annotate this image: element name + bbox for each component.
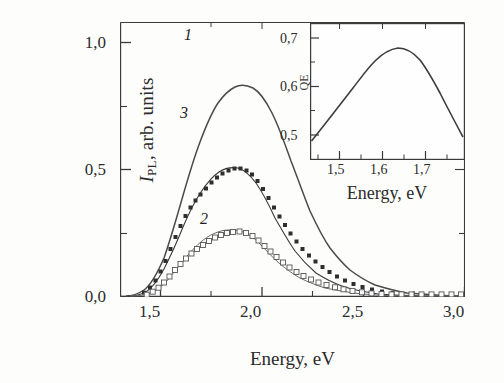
inset-x-tick-label-0: 1,5 <box>327 162 345 178</box>
curve-label-3: 3 <box>180 104 188 122</box>
inset-y-axis-title: QE <box>297 53 312 113</box>
y-tick-label-1: 0,5 <box>64 160 106 180</box>
y-axis-units: , arb. units <box>136 77 157 160</box>
photoluminescence-figure: 1 3 2 0,0 0,5 1,0 1,5 2,0 2,5 3,0 IPL, a… <box>0 0 504 383</box>
inset-chart: 0,5 0,6 0,7 1,5 1,6 1,7 QE Energy, eV <box>310 23 465 160</box>
x-axis-title: Energy, eV <box>120 348 465 370</box>
x-tick-label-1: 2,0 <box>240 302 261 322</box>
main-top-ticks <box>211 23 313 30</box>
curve-label-2: 2 <box>200 210 208 228</box>
y-axis-subscript: PL <box>144 160 159 176</box>
y-axis-title: IPL, arb. units <box>136 30 160 230</box>
x-tick-label-2: 2,5 <box>342 302 363 322</box>
inset-x-tick-label-1: 1,6 <box>370 162 388 178</box>
inset-y-tick-label-1: 0,6 <box>280 79 298 95</box>
y-axis-symbol: I <box>136 176 157 183</box>
curve-label-1: 1 <box>184 26 192 44</box>
inset-x-tick-label-2: 1,7 <box>413 162 431 178</box>
inset-y-tick-label-0: 0,5 <box>280 128 298 144</box>
y-tick-label-0: 0,0 <box>64 287 106 307</box>
curve-2-markers <box>144 229 463 297</box>
y-tick-label-2: 1,0 <box>64 33 106 53</box>
inset-background <box>310 23 465 160</box>
inset-y-tick-label-2: 0,7 <box>280 31 298 47</box>
x-tick-label-0: 1,5 <box>139 302 160 322</box>
inset-x-axis-title: Energy, eV <box>302 183 472 204</box>
main-y-major-ticks <box>121 43 132 297</box>
x-tick-label-3: 3,0 <box>443 302 464 322</box>
inset-chart-svg <box>310 23 465 160</box>
